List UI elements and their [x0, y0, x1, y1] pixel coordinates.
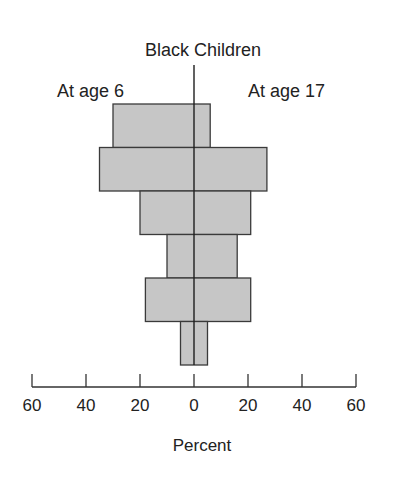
pyramid-bar — [167, 235, 237, 279]
pyramid-bar — [113, 104, 210, 148]
x-tick-label: 0 — [174, 396, 214, 416]
x-tick-label: 20 — [120, 396, 160, 416]
x-tick-label: 40 — [282, 396, 322, 416]
x-tick-label: 60 — [12, 396, 52, 416]
pyramid-bar — [140, 191, 251, 235]
x-tick-label: 40 — [66, 396, 106, 416]
x-axis-label: Percent — [0, 436, 400, 456]
pyramid-bar — [100, 148, 267, 192]
pyramid-bar — [145, 278, 250, 322]
population-pyramid-chart: Black Children At age 6 At age 17 604020… — [0, 0, 400, 481]
x-tick-label: 60 — [336, 396, 376, 416]
x-tick-label: 20 — [228, 396, 268, 416]
